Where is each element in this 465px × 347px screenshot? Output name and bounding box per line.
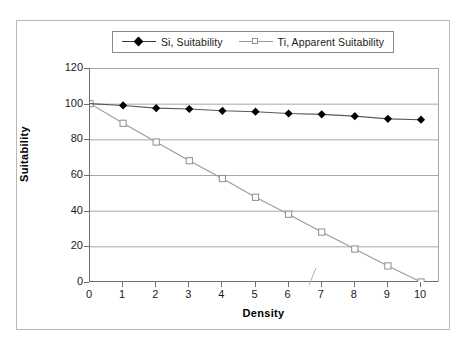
x-axis-tick-label: 10 bbox=[405, 288, 435, 300]
x-axis-title: Density bbox=[89, 307, 438, 319]
y-axis-tick-labels: 020406080100120 bbox=[45, 68, 83, 282]
x-axis-tick-label: 3 bbox=[173, 288, 203, 300]
y-axis-tick-label: 120 bbox=[49, 61, 83, 73]
legend-label-si: Si, Suitability bbox=[161, 36, 223, 48]
x-axis-tick-label: 1 bbox=[107, 288, 137, 300]
x-axis-tick bbox=[321, 282, 322, 287]
data-point-marker bbox=[319, 229, 325, 235]
x-axis-tick bbox=[387, 282, 388, 287]
x-axis-tick bbox=[420, 282, 421, 287]
data-point-marker bbox=[351, 112, 359, 120]
data-point-marker bbox=[385, 263, 391, 269]
x-axis-tick-label: 4 bbox=[206, 288, 236, 300]
x-axis-tick bbox=[288, 282, 289, 287]
x-axis-tick bbox=[155, 282, 156, 287]
x-axis-tick-label: 6 bbox=[273, 288, 303, 300]
x-axis-tick-label: 0 bbox=[74, 288, 104, 300]
data-point-marker bbox=[286, 211, 292, 217]
legend-item-ti: Ti, Apparent Suitability bbox=[239, 36, 384, 48]
x-axis-tick-label: 9 bbox=[372, 288, 402, 300]
data-point-marker bbox=[185, 105, 193, 113]
data-point-marker bbox=[152, 104, 160, 112]
legend-label-ti: Ti, Apparent Suitability bbox=[278, 36, 384, 48]
data-point-marker bbox=[119, 101, 127, 109]
x-axis-tick-labels: 012345678910 bbox=[89, 288, 438, 304]
chart-legend: Si, Suitability Ti, Apparent Suitability bbox=[112, 31, 394, 53]
data-point-marker bbox=[120, 120, 126, 126]
filled-diamond-icon bbox=[122, 36, 156, 48]
data-point-marker bbox=[186, 158, 192, 164]
legend-item-si: Si, Suitability bbox=[122, 36, 223, 48]
data-point-marker bbox=[417, 116, 425, 124]
x-axis-tick bbox=[122, 282, 123, 287]
x-axis-tick-label: 7 bbox=[306, 288, 336, 300]
data-point-marker bbox=[285, 109, 293, 117]
x-axis-tick-label: 2 bbox=[140, 288, 170, 300]
data-point-marker bbox=[384, 115, 392, 123]
series-si-suitability bbox=[90, 101, 425, 123]
x-axis-tick bbox=[221, 282, 222, 287]
y-axis-tick-label: 40 bbox=[49, 204, 83, 216]
data-point-marker bbox=[352, 246, 358, 252]
series-ti-apparent-suitability bbox=[90, 101, 424, 282]
y-axis-tick-label: 0 bbox=[49, 275, 83, 287]
data-point-marker bbox=[252, 194, 258, 200]
y-axis-tick-label: 100 bbox=[49, 97, 83, 109]
data-point-marker bbox=[318, 110, 326, 118]
x-axis-tick-label: 8 bbox=[339, 288, 369, 300]
plot-canvas bbox=[90, 68, 439, 282]
y-axis-tick-label: 60 bbox=[49, 168, 83, 180]
data-point-marker bbox=[251, 108, 259, 116]
gridlines bbox=[90, 68, 439, 282]
x-axis-tick bbox=[354, 282, 355, 287]
x-axis-tick bbox=[188, 282, 189, 287]
y-axis-title: Suitability bbox=[18, 104, 30, 204]
data-point-marker bbox=[218, 107, 226, 115]
x-axis-ticks bbox=[89, 282, 438, 287]
y-axis-tick-label: 80 bbox=[49, 132, 83, 144]
y-axis-tick-label: 20 bbox=[49, 239, 83, 251]
x-axis-tick bbox=[255, 282, 256, 287]
data-point-marker bbox=[219, 175, 225, 181]
plot-area bbox=[89, 68, 438, 282]
figure-root: Si, Suitability Ti, Apparent Suitability… bbox=[0, 0, 465, 347]
x-axis-tick-label: 5 bbox=[240, 288, 270, 300]
data-point-marker bbox=[153, 139, 159, 145]
open-square-icon bbox=[239, 36, 273, 48]
